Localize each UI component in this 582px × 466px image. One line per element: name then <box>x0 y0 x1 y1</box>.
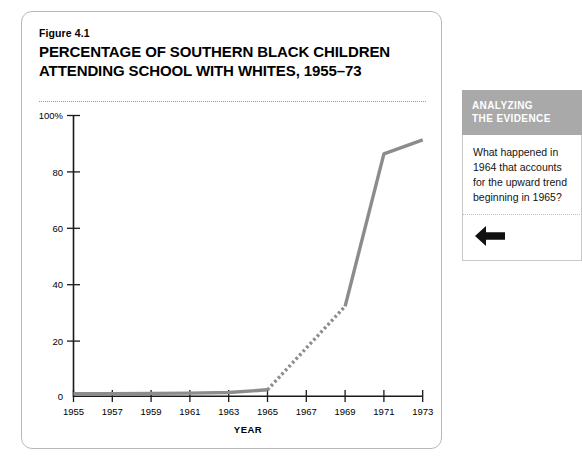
y-tick-label-80: 80 <box>52 167 63 178</box>
x-axis-title: YEAR <box>234 424 262 435</box>
sidebar-footer <box>462 214 582 261</box>
x-tick-label-1969: 1969 <box>335 406 356 417</box>
figure-card: Figure 4.1 PERCENTAGE OF SOUTHERN BLACK … <box>21 11 442 449</box>
y-tick-label-60: 60 <box>52 223 63 234</box>
x-tick-label-1959: 1959 <box>141 406 162 417</box>
x-tick-label-1965: 1965 <box>257 406 278 417</box>
x-tick-label-1955: 1955 <box>63 406 84 417</box>
analyzing-the-evidence-panel: ANALYZING THE EVIDENCE What happened in … <box>462 90 582 261</box>
line-chart: 100% 80 60 40 20 0 1955 <box>22 12 443 450</box>
data-line-solid-early <box>74 390 268 394</box>
x-axis-tick-labels: 1955 1957 1959 1961 1963 1965 1967 1969 … <box>63 406 433 417</box>
data-line-dotted <box>268 306 346 390</box>
x-tick-label-1957: 1957 <box>102 406 123 417</box>
sidebar-body: What happened in 1964 that accounts for … <box>462 135 582 214</box>
arrow-left-icon[interactable] <box>473 223 507 249</box>
x-tick-label-1961: 1961 <box>179 406 200 417</box>
sidebar-header-line-2: THE EVIDENCE <box>472 112 572 125</box>
x-tick-label-1971: 1971 <box>373 406 394 417</box>
y-tick-label-100: 100% <box>39 110 64 121</box>
y-tick-label-20: 20 <box>52 336 63 347</box>
sidebar-header: ANALYZING THE EVIDENCE <box>462 90 582 135</box>
sidebar-header-line-1: ANALYZING <box>472 99 572 112</box>
x-tick-label-1967: 1967 <box>296 406 317 417</box>
x-tick-label-1973: 1973 <box>412 406 433 417</box>
y-axis-tick-labels: 100% 80 60 40 20 0 <box>39 110 64 402</box>
y-tick-label-40: 40 <box>52 279 63 290</box>
x-tick-label-1963: 1963 <box>218 406 239 417</box>
analysis-question-text: What happened in 1964 that accounts for … <box>473 145 571 205</box>
y-tick-label-0: 0 <box>58 391 63 402</box>
chart-svg: 100% 80 60 40 20 0 1955 <box>22 12 443 450</box>
data-line-solid-late <box>345 140 423 306</box>
